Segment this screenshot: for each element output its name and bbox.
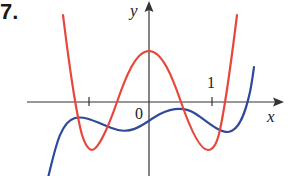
graph-canvas: y x 0 1 (0, 0, 290, 176)
tick-label-1: 1 (207, 74, 215, 91)
x-axis-label: x (266, 107, 275, 126)
y-axis (145, 1, 154, 176)
origin-label: 0 (135, 105, 143, 122)
x-axis (27, 97, 284, 107)
y-axis-label: y (128, 1, 138, 20)
graph-figure: 7. y x 0 1 (0, 0, 290, 176)
problem-number: 7. (0, 1, 18, 23)
